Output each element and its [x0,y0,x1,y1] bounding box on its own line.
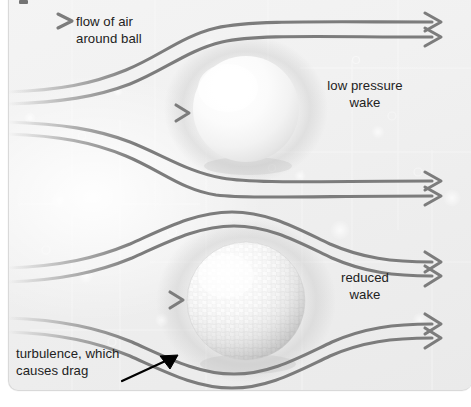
legend-arrow-icon [22,14,72,28]
label-flow-of-air: flow of air around ball [76,14,142,47]
top-edge-artifact [19,0,28,4]
diagram-canvas: flow of air around ball low pressure wak… [0,0,471,407]
label-reduced-wake: reduced wake [310,270,420,303]
label-low-pressure-wake: low pressure wake [310,78,420,111]
pointer-arrow-icon [122,355,178,381]
label-turbulence: turbulence, which causes drag [16,346,119,379]
